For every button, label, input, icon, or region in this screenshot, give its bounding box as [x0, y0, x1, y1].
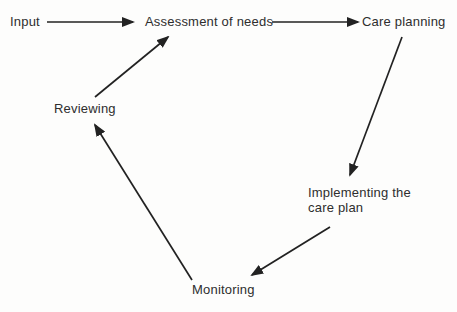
arrow-implementing-to-monitoring	[252, 227, 330, 275]
node-input: Input	[10, 14, 40, 29]
node-assessment-of-needs: Assessment of needs	[145, 14, 273, 29]
node-care-planning: Care planning	[362, 14, 446, 29]
node-monitoring: Monitoring	[192, 282, 255, 297]
arrow-reviewing-to-assessment	[95, 37, 168, 97]
node-implementing-the-care-plan: Implementing the care plan	[308, 185, 420, 215]
diagram-edges	[47, 22, 402, 280]
arrow-care_planning-to-implementing	[350, 37, 402, 175]
arrow-monitoring-to-reviewing	[95, 125, 192, 280]
arrow-layer	[0, 0, 457, 312]
node-reviewing: Reviewing	[54, 101, 116, 116]
care-planning-cycle-diagram: Input Assessment of needs Care planning …	[0, 0, 457, 312]
